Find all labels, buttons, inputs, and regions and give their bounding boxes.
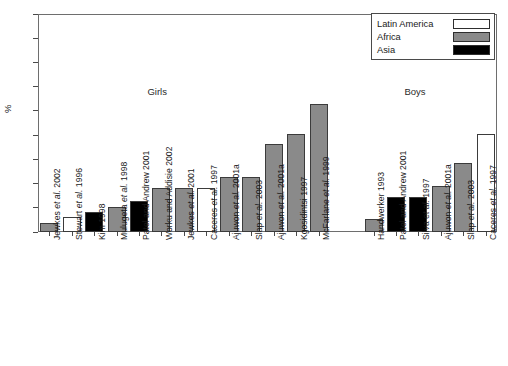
x-axis-tick-mark <box>184 232 185 236</box>
legend-item-label: Latin America <box>377 19 451 29</box>
legend-swatch-white <box>453 19 490 29</box>
x-axis-tick-mark <box>139 232 140 236</box>
x-axis-tick-label: Ajuwon et al. 2001a <box>277 164 286 240</box>
x-axis-tick-mark <box>274 232 275 236</box>
legend-item-label: Asia <box>377 45 451 55</box>
legend: Latin AmericaAfricaAsia <box>371 13 495 60</box>
bar-chart-figure: 051015202530354045 % Latin AmericaAfrica… <box>0 0 508 366</box>
legend-item: Latin America <box>377 17 490 30</box>
legend-swatch-black <box>453 45 490 55</box>
x-axis-tick-mark <box>441 232 442 236</box>
x-axis-tick-mark <box>418 232 419 236</box>
x-axis-tick-label: Mulugeta et al. 1998 <box>120 162 129 240</box>
x-axis-tick-mark <box>72 232 73 236</box>
x-axis-tick-mark <box>229 232 230 236</box>
y-axis-title: % <box>2 105 13 113</box>
x-axis-tick-mark <box>296 232 297 236</box>
y-axis: 051015202530354045 <box>0 0 38 246</box>
x-axis-tick-mark <box>319 232 320 236</box>
x-axis-tick-mark <box>396 232 397 236</box>
x-axis-tick-label: McFarlane et al. 1999 <box>322 156 331 240</box>
x-axis-tick-label: Ajuwon et al. 2001a <box>232 164 241 240</box>
x-axis-tick-label: Ajuwon et al. 2001a <box>444 164 453 240</box>
x-axis-tick-label: Patel and Andrew 2001 <box>399 151 408 240</box>
x-axis-tick-label: Slap et al. 2003 <box>255 180 264 240</box>
x-axis-tick-label: Jewkes et al. 2002 <box>53 168 62 240</box>
group-label-girls: Girls <box>147 86 167 97</box>
x-axis-tick-label: Handwerker 1993 <box>377 172 386 240</box>
legend-item-label: Africa <box>377 32 451 42</box>
legend-item: Asia <box>377 43 490 56</box>
x-axis-tick-label: Patel and Andrew 2001 <box>142 151 151 240</box>
x-axis-tick-mark <box>463 232 464 236</box>
x-axis-tick-label: Slap et al. 2003 <box>467 180 476 240</box>
x-axis-tick-label: Worku and Addisie 2002 <box>165 147 174 240</box>
x-axis-tick-label: Silva et al. 1997 <box>422 178 431 240</box>
x-axis-tick-mark <box>49 232 50 236</box>
x-axis-tick-mark <box>486 232 487 236</box>
legend-item: Africa <box>377 30 490 43</box>
x-axis-tick-mark <box>117 232 118 236</box>
x-axis-tick-label: Kim 1998 <box>98 204 107 240</box>
x-axis-tick-mark <box>374 232 375 236</box>
x-axis-tick-mark <box>161 232 162 236</box>
group-label-boys: Boys <box>404 86 425 97</box>
x-axis-tick-label: Caceres et al. 1997 <box>210 165 219 240</box>
x-axis-tick-mark <box>251 232 252 236</box>
x-axis-tick-label: Jewkes et al. 2001 <box>187 168 196 240</box>
legend-swatch-gray <box>453 32 490 42</box>
x-axis-tick-label: Stewart et al. 1996 <box>75 168 84 240</box>
x-axis-tick-label: Caceres et al. 1997 <box>489 165 498 240</box>
x-axis-tick-mark <box>206 232 207 236</box>
x-axis-tick-mark <box>94 232 95 236</box>
x-axis-tick-label: Kgosidintsi 1997 <box>300 177 309 240</box>
